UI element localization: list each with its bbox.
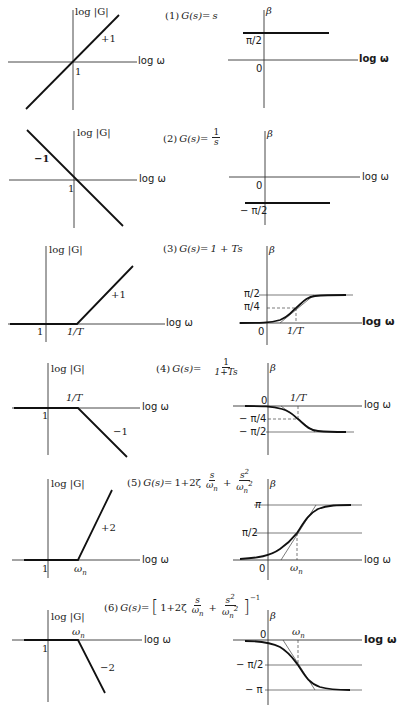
phase-axis-label: β (267, 129, 273, 139)
panel-number: (3) (163, 243, 177, 254)
corner-frequency-label: 1/T (290, 393, 306, 403)
phase-zero-label: 0 (258, 327, 264, 337)
slope-label: +1 (101, 34, 116, 44)
phase-lower-label: − π/2 (239, 427, 266, 437)
magnitude-axis-label: log |G| (51, 479, 85, 489)
magnitude-axis-label: log |G| (75, 7, 109, 17)
phase-axis-label: β (270, 363, 276, 373)
panel-number: (6) (104, 602, 118, 613)
transfer-function-lhs: G(s)= (181, 10, 210, 21)
fraction: s2 ωn2 (221, 594, 239, 621)
phase-zero-label: 0 (256, 64, 262, 74)
transfer-function-expr: s (212, 10, 217, 21)
phase-upper-label: π/2 (244, 289, 260, 299)
panel-number: (2) (163, 133, 177, 144)
magnitude-axis-label: log |G| (77, 128, 111, 138)
corner-frequency-label: 1/T (67, 327, 83, 337)
phase-mid-label: − π/2 (236, 660, 263, 670)
phase-mid-label: π/2 (242, 528, 258, 538)
transfer-function-expr: 1 + Ts (210, 243, 242, 254)
panel-2-magnitude-plot (9, 130, 137, 228)
unity-label: 1 (42, 644, 48, 654)
phase-zero-label: 0 (256, 181, 262, 191)
phase-zero-label: 0 (259, 564, 265, 574)
slope-label: +1 (111, 290, 126, 300)
corner-frequency-label: ωn (292, 627, 305, 640)
fraction: s2 ωn2 (235, 469, 253, 496)
unity-label: 1 (68, 184, 74, 194)
title-term: 1+2ζ (160, 602, 187, 613)
transfer-function-lhs: G(s)= (179, 243, 208, 254)
phase-axis-label: β (266, 6, 272, 16)
fraction: s ωn (191, 596, 205, 619)
corner-frequency-label: ωn (290, 563, 303, 576)
transfer-function-lhs: G(s)= (120, 602, 149, 613)
panel-3-title: (3) G(s)= 1 + Ts (163, 243, 243, 254)
phase-axis-label: β (270, 611, 276, 621)
panel-1-phase-plot (228, 10, 358, 108)
frequency-axis-label: log ω (364, 634, 397, 645)
frequency-axis-label: log ω (364, 555, 391, 565)
panel-4-magnitude-plot (12, 363, 140, 457)
phase-lower-label: − π (245, 685, 263, 695)
unity-label: 1 (42, 411, 48, 421)
phase-mid-label: π/4 (244, 302, 260, 312)
frequency-axis-label: log ω (144, 635, 171, 645)
slope-label: −2 (100, 663, 115, 673)
panel-3-magnitude-plot (8, 246, 165, 342)
panel-5-title: (5) G(s)= 1+2ζ s ωn + s2 ωn2 (127, 469, 256, 496)
frequency-axis-label: log ω (364, 400, 391, 410)
transfer-function-lhs: G(s)= (172, 363, 201, 374)
magnitude-asymptote (27, 130, 123, 226)
panel-1-magnitude-plot (8, 10, 137, 110)
frequency-axis-label: log ω (142, 402, 169, 412)
panel-number: (1) (165, 10, 179, 21)
fraction: s ωn (205, 471, 219, 494)
slope-label: −1 (113, 427, 128, 437)
frequency-axis-label: log ω (166, 318, 193, 328)
panel-number: (4) (156, 363, 170, 374)
magnitude-axis-label: log |G| (49, 245, 83, 255)
panel-6-magnitude-plot (12, 610, 142, 702)
panel-1-title: (1) G(s)= s (165, 10, 218, 21)
phase-axis-label: β (269, 245, 275, 255)
frequency-axis-label: log ω (139, 174, 166, 184)
frequency-axis-label: log ω (362, 172, 389, 182)
unity-label: 1 (37, 327, 43, 337)
slope-label: −1 (34, 154, 49, 164)
magnitude-axis-label: log |G| (51, 364, 85, 374)
frequency-axis-label: log ω (142, 555, 169, 565)
corner-frequency-label: 1/T (287, 326, 303, 336)
frequency-axis-label: log ω (138, 56, 165, 66)
unity-label: 1 (75, 67, 81, 77)
slope-label: +2 (101, 523, 116, 533)
magnitude-asymptote (14, 408, 127, 457)
panel-4-phase-plot (233, 363, 362, 455)
panel-number: (5) (127, 477, 141, 488)
phase-zero-label: 0 (260, 630, 266, 640)
title-term: 1+2ζ (174, 477, 201, 488)
frequency-axis-label: log ω (362, 316, 395, 327)
phase-level-label: − π/2 (240, 206, 267, 216)
magnitude-asymptote (24, 640, 105, 693)
transfer-function-lhs: G(s)= (179, 133, 208, 144)
fraction: 1 1+Ts (213, 358, 238, 378)
fraction: 1 s (212, 128, 220, 148)
phase-upper-label: π (255, 500, 261, 510)
magnitude-axis-label: log |G| (51, 612, 85, 622)
corner-frequency-label: 1/T (66, 393, 82, 403)
transfer-function-lhs: G(s)= (143, 477, 172, 488)
magnitude-asymptote (24, 490, 112, 560)
corner-frequency-label: ωn (74, 564, 87, 577)
phase-axis-label: β (270, 479, 276, 489)
panel-2-title: (2) G(s)= 1 s (163, 128, 222, 148)
frequency-axis-label: log ω (359, 54, 389, 64)
corner-frequency-label: ωn (72, 627, 85, 640)
phase-mid-label: − π/4 (239, 414, 266, 424)
tangent-line (280, 295, 314, 323)
phase-level-label: π/2 (246, 36, 262, 46)
panel-4-title: (4) G(s)= 1 1+Ts (156, 358, 241, 378)
panel-6-title: (6) G(s)= [ 1+2ζ s ωn + s2 ωn2 ] −1 (104, 594, 260, 621)
phase-zero-label: 0 (261, 396, 267, 406)
unity-label: 1 (42, 564, 48, 574)
